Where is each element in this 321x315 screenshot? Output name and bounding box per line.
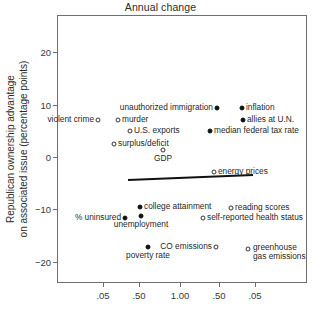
data-point-label: CO emissions [160,242,212,251]
chart-container: Annual change Republican ownership advan… [0,0,321,315]
y-axis-label-line1: Republican ownership advantage [5,75,16,223]
x-tick-mark [255,283,256,287]
data-point-marker[interactable] [146,245,151,250]
y-tick-label: 0 [46,152,51,163]
x-tick-label: .05 [248,290,261,301]
y-tick-mark [53,105,57,106]
y-tick-mark [53,157,57,158]
y-tick-mark [53,262,57,263]
data-point-label: college attainment [144,202,211,211]
data-point-marker[interactable] [229,206,234,211]
data-point-marker[interactable] [246,247,251,252]
data-point-marker[interactable] [208,129,213,134]
data-point-marker[interactable] [201,216,206,221]
x-tick-label: 1.00 [171,290,190,301]
y-tick-label: 10 [40,99,51,110]
data-point-label: GDP [154,154,172,163]
data-point-label: self-reported health status [207,213,303,222]
data-point-label: inflation [246,103,275,112]
data-point-label: median federal tax rate [214,126,299,135]
data-point-marker[interactable] [161,148,166,153]
x-tick-label: .50 [212,290,225,301]
y-axis-label-text: Republican ownership advantage on associ… [4,61,30,238]
x-tick-mark [180,283,181,287]
data-point-label: poverty rate [126,251,170,260]
y-tick-label: 20 [40,47,51,58]
data-point-marker[interactable] [128,129,133,134]
data-point-label: unauthorized immigration [120,103,213,112]
data-point-label: reading scores [235,203,289,212]
data-point-marker[interactable] [214,245,219,250]
data-point-marker[interactable] [112,142,117,147]
x-tick-mark [103,283,104,287]
data-point-marker[interactable] [240,106,245,111]
y-axis-label-line2: on associated issue (percentage points) [18,61,29,238]
data-point-label: U.S. exports [134,126,180,135]
y-tick-mark [53,209,57,210]
x-tick-label: .50 [132,290,145,301]
y-tick-label: −20 [35,256,51,267]
data-point-label: greenhouse gas emissions [253,243,307,262]
data-point-marker[interactable] [215,106,220,111]
x-tick-mark [219,283,220,287]
data-point-marker[interactable] [116,118,121,123]
data-point-marker[interactable] [139,214,144,219]
data-point-marker[interactable] [212,170,217,175]
x-tick-mark [139,283,140,287]
chart-title: Annual change [0,1,321,13]
y-axis-label: Republican ownership advantage on associ… [0,15,34,283]
data-point-label: allies at U.N. [247,115,294,124]
data-point-label: unemployment [114,220,168,229]
y-tick-label: −10 [35,204,51,215]
data-point-label: energy prices [218,167,268,176]
y-tick-mark [53,52,57,53]
data-point-marker[interactable] [96,118,101,123]
x-tick-label: .05 [96,290,109,301]
plot-area: 20100−10−20 .05.501.00.50.05 violent cri… [57,15,307,283]
data-point-marker[interactable] [241,118,246,123]
data-point-label: violent crime [47,115,94,124]
data-point-label: murder [122,115,148,124]
data-point-marker[interactable] [138,205,143,210]
